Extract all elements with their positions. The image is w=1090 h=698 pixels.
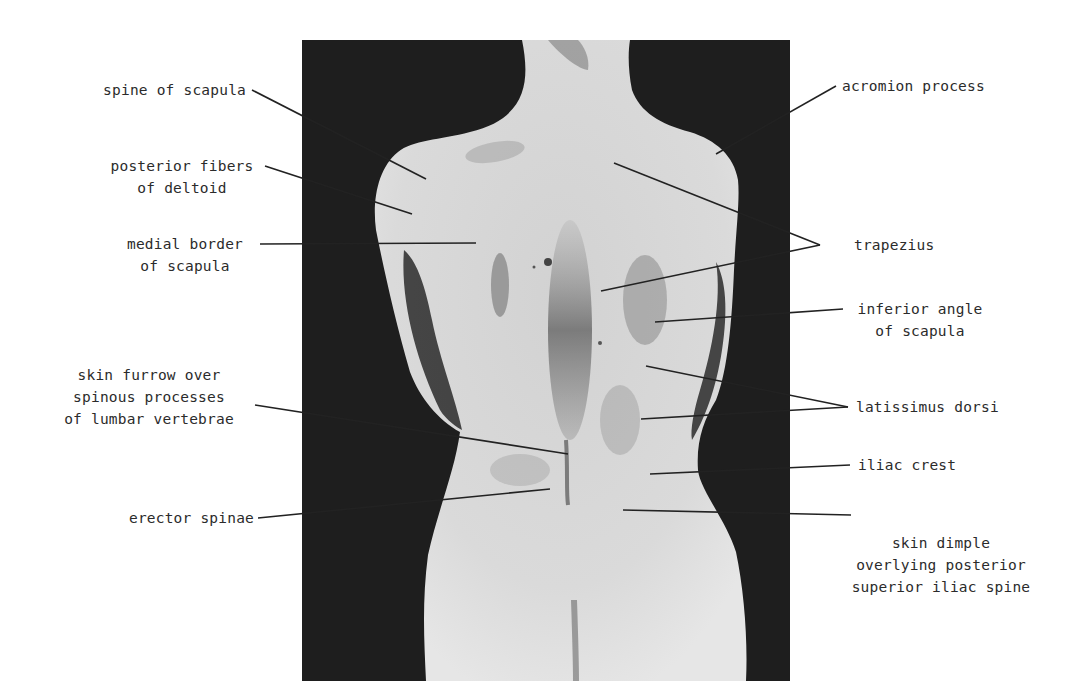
label-posterior-fibers-of-deltoid: posterior fibers of deltoid [96, 155, 268, 199]
label-skin-dimple-psis: skin dimple overlying posterior superior… [836, 532, 1046, 598]
label-iliac-crest: iliac crest [858, 454, 956, 476]
label-latissimus-dorsi: latissimus dorsi [856, 396, 999, 418]
label-inferior-angle-of-scapula: inferior angle of scapula [846, 298, 994, 342]
label-spine-of-scapula: spine of scapula [103, 79, 246, 101]
line-medial-border [260, 243, 476, 244]
label-erector-spinae: erector spinae [129, 507, 254, 529]
label-trapezius: trapezius [854, 234, 934, 256]
anatomy-figure: spine of scapula posterior fibers of del… [0, 0, 1090, 698]
label-medial-border-of-scapula: medial border of scapula [110, 233, 260, 277]
label-acromion-process: acromion process [842, 75, 985, 97]
label-skin-furrow-lumbar: skin furrow over spinous processes of lu… [48, 364, 250, 430]
